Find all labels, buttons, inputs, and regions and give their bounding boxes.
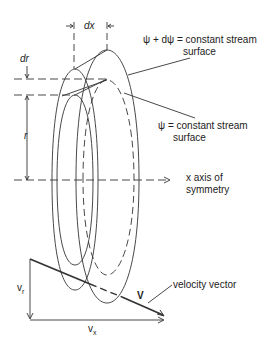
outer-surface-label-2: surface	[183, 46, 216, 57]
stream-tube-diagram	[0, 0, 263, 348]
axis-label-2: symmetry	[186, 184, 229, 195]
r-label: r	[24, 130, 27, 141]
inner-surface-leader	[124, 93, 195, 118]
V-label: V	[137, 290, 144, 301]
inner-surface-label-2: surface	[173, 132, 206, 143]
velocity-vector-V	[30, 259, 90, 284]
outer-surface-leader	[128, 58, 190, 75]
velocity-leader	[148, 285, 172, 303]
vr-label: vr	[17, 282, 24, 297]
dx-label: dx	[84, 20, 95, 31]
velocity-vector-label: velocity vector	[173, 279, 236, 290]
outer-surface-label: ψ + dψ = constant stream	[143, 34, 257, 45]
vx-label: vx	[88, 323, 97, 338]
inner-surface-label: ψ = constant stream	[158, 120, 248, 131]
axis-label: x axis of	[186, 172, 223, 183]
dr-label: dr	[20, 53, 29, 64]
back-inner-ellipse	[83, 80, 134, 275]
